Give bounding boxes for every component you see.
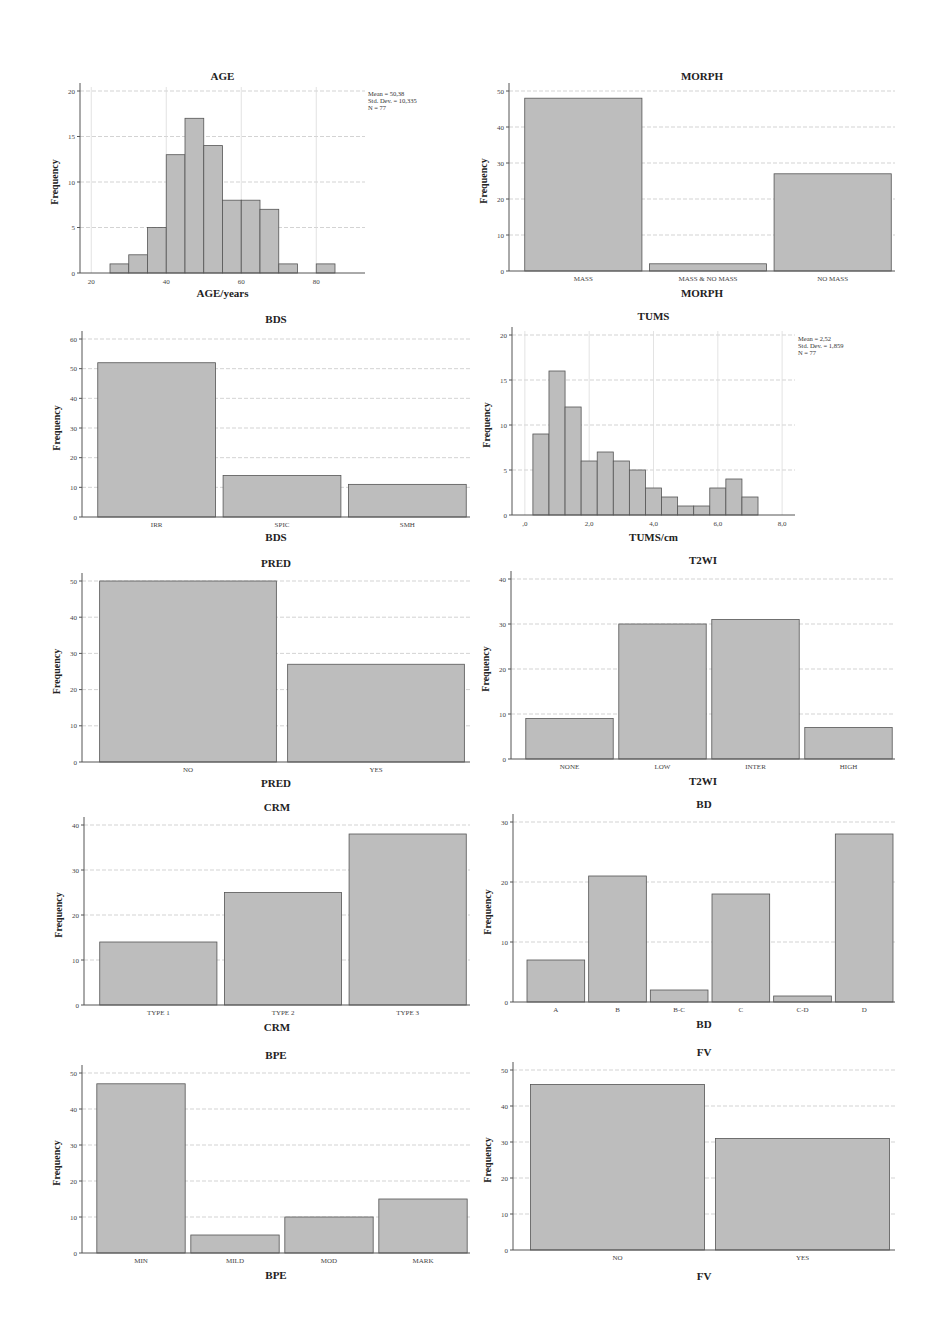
y-tick-label: 10	[72, 957, 80, 965]
histogram-bar	[629, 470, 645, 515]
histogram-bar	[694, 506, 710, 515]
y-axis-label: Frequency	[49, 159, 60, 204]
x-axis-label: T2WI	[689, 775, 717, 787]
category-label: SMH	[400, 521, 415, 529]
chart-title: BDS	[265, 313, 286, 325]
x-tick-label: ,0	[522, 520, 528, 528]
category-label: B	[615, 1006, 620, 1014]
chart-title: BD	[696, 798, 711, 810]
y-axis-label: Frequency	[51, 405, 62, 450]
chart-fv: FV01020304050FrequencyNOYESFV	[482, 1046, 895, 1282]
y-tick-label: 60	[70, 336, 78, 344]
y-tick-label: 20	[70, 454, 78, 462]
y-tick-label: 20	[500, 332, 508, 340]
y-tick-label: 0	[74, 514, 78, 522]
y-tick-label: 10	[70, 484, 78, 492]
y-axis-label: Frequency	[482, 889, 493, 934]
category-label: TYPE 2	[272, 1009, 295, 1017]
histogram-bar	[613, 461, 629, 515]
y-tick-label: 50	[497, 88, 505, 96]
y-tick-label: 20	[499, 666, 507, 674]
bar-c-d	[774, 996, 832, 1002]
x-axis-label: BDS	[265, 531, 286, 543]
y-tick-label: 0	[504, 512, 508, 520]
y-tick-label: 40	[501, 1103, 509, 1111]
category-label: NONE	[560, 763, 579, 771]
histogram-bar	[597, 452, 613, 515]
category-label: B-C	[673, 1006, 685, 1014]
category-label: MILD	[226, 1257, 244, 1265]
y-tick-label: 15	[68, 133, 76, 141]
chart-pred: PRED01020304050FrequencyNOYESPRED	[51, 557, 470, 789]
y-axis-label: Frequency	[481, 402, 492, 447]
y-tick-label: 10	[501, 1211, 509, 1219]
chart-bpe: BPE01020304050FrequencyMINMILDMODMARKBPE	[51, 1049, 470, 1281]
y-tick-label: 40	[70, 1106, 78, 1114]
category-label: SPIC	[275, 521, 290, 529]
figure-panel-grid: AGE05101520Frequency20406080Mean = 50,38…	[0, 0, 946, 1341]
chart-tums: TUMS05101520Frequency,02,04,06,08,0Mean …	[481, 310, 844, 543]
histogram-bar	[533, 434, 549, 515]
y-tick-label: 50	[70, 1070, 78, 1078]
y-tick-label: 0	[74, 1250, 78, 1258]
bar-a	[527, 960, 585, 1002]
chart-t2wi: T2WI010203040FrequencyNONELOWINTERHIGHT2…	[480, 554, 895, 787]
bar-no	[531, 1084, 705, 1250]
y-tick-label: 10	[68, 179, 76, 187]
bar-min	[97, 1084, 185, 1253]
bar-d	[835, 834, 893, 1002]
histogram-bar	[678, 506, 694, 515]
y-axis-label: Frequency	[51, 1140, 62, 1185]
y-tick-label: 10	[500, 422, 508, 430]
x-tick-label: 8,0	[778, 520, 787, 528]
category-label: A	[553, 1006, 558, 1014]
bar-no	[100, 581, 277, 762]
category-label: MIN	[134, 1257, 148, 1265]
category-label: IRR	[151, 521, 163, 529]
stats-line: Mean = 2,52	[798, 335, 831, 342]
stats-line: Mean = 50,38	[368, 90, 404, 97]
y-axis-label: Frequency	[53, 892, 64, 937]
bar-type-2	[224, 893, 341, 1006]
y-tick-label: 5	[72, 224, 76, 232]
category-label: LOW	[655, 763, 671, 771]
category-label: YES	[796, 1254, 809, 1262]
stats-line: Std. Dev. = 1,859	[798, 342, 844, 349]
bar-b-c	[650, 990, 708, 1002]
histogram-bar	[110, 264, 129, 273]
chart-title: TUMS	[638, 310, 670, 322]
x-axis-label: BD	[696, 1018, 711, 1030]
bar-no-mass	[774, 174, 891, 271]
x-tick-label: 80	[313, 278, 321, 286]
x-tick-label: 20	[88, 278, 96, 286]
chart-title: FV	[697, 1046, 712, 1058]
y-tick-label: 30	[70, 425, 78, 433]
histogram-bar	[241, 200, 260, 273]
histogram-bar	[204, 146, 223, 273]
chart-crm: CRM010203040FrequencyTYPE 1TYPE 2TYPE 3C…	[53, 801, 470, 1033]
bar-mod	[285, 1217, 373, 1253]
x-tick-label: 40	[163, 278, 171, 286]
bar-smh	[348, 484, 466, 517]
histogram-bar	[185, 118, 204, 273]
y-tick-label: 10	[501, 939, 509, 947]
histogram-bar	[565, 407, 581, 515]
y-tick-label: 10	[70, 722, 78, 730]
y-tick-label: 0	[503, 756, 507, 764]
y-tick-label: 40	[70, 614, 78, 622]
x-axis-label: CRM	[264, 1021, 291, 1033]
bar-high	[805, 728, 892, 760]
bar-low	[619, 624, 706, 759]
chart-title: AGE	[211, 70, 235, 82]
y-tick-label: 40	[499, 576, 507, 584]
y-tick-label: 30	[70, 1142, 78, 1150]
y-tick-label: 20	[501, 879, 509, 887]
stats-line: N = 77	[798, 349, 817, 356]
chart-title: CRM	[264, 801, 291, 813]
bar-inter	[712, 620, 799, 760]
x-axis-label: PRED	[261, 777, 291, 789]
histogram-bar	[726, 479, 742, 515]
y-tick-label: 5	[504, 467, 508, 475]
bar-spic	[223, 475, 341, 517]
y-axis-label: Frequency	[478, 158, 489, 203]
